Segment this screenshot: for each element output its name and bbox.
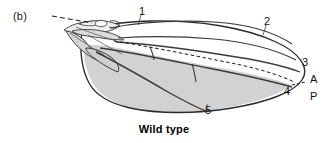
vein-label-5: 5 — [205, 105, 211, 116]
wing-figure: (b) 1 2 3 4 5 A P Wild type — [0, 0, 328, 143]
panel-letter: (b) — [13, 10, 27, 22]
compartment-label-anterior: A — [310, 74, 317, 85]
compartment-label-posterior: P — [310, 91, 317, 102]
vein-label-4: 4 — [284, 86, 290, 97]
figure-caption: Wild type — [0, 123, 328, 135]
proximal-dashed-line — [52, 16, 92, 23]
hinge-sclerite-oval-a — [95, 20, 107, 26]
vein-label-2: 2 — [264, 16, 270, 27]
vein-label-3: 3 — [302, 57, 308, 68]
wing-diagram-svg — [0, 0, 328, 143]
vein-label-1: 1 — [139, 6, 145, 17]
